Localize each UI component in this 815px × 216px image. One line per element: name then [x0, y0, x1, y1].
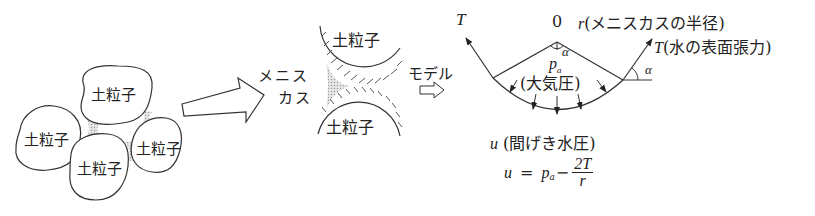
equation-equals: =: [520, 163, 533, 182]
grain-label: 土粒子: [332, 27, 380, 51]
grain-label: 土粒子: [91, 83, 136, 104]
hollow-arrow-icon: [182, 78, 264, 122]
meniscus-label: メニス: [258, 64, 309, 85]
tension-symbol: T: [654, 39, 663, 56]
center-label: 0: [552, 12, 562, 31]
radius-description: (メニスカスの半径): [584, 14, 724, 33]
grain-label: 土粒子: [326, 114, 374, 138]
equation-pa: p: [541, 164, 549, 182]
tension-description: (水の表面張力): [663, 38, 771, 57]
radius-label: r(メニスカスの半径): [578, 10, 725, 34]
fraction-numerator: 2T: [572, 156, 593, 173]
alpha-right-label: α: [645, 62, 652, 78]
pore-symbol: u: [490, 135, 498, 152]
tension-left-label: T: [456, 10, 465, 30]
equation-pa-subscript: a: [549, 172, 554, 182]
equation-minus: −: [556, 163, 569, 182]
grain-label: 土粒子: [77, 157, 122, 178]
grain-label: 土粒子: [24, 128, 69, 149]
equation-fraction: 2T r: [572, 156, 593, 189]
model-label: モデル: [408, 62, 453, 83]
pore-description: (間げき水圧): [503, 134, 595, 153]
pore-pressure-equation: u = pa − 2T r: [504, 156, 593, 189]
tension-right-label: T(水の表面張力): [654, 34, 771, 58]
meniscus-label: カス: [278, 86, 312, 107]
model-arrow-icon: [420, 82, 444, 98]
alpha-top-label: α: [562, 44, 569, 60]
atmospheric-pressure-label: (大気圧): [520, 70, 580, 94]
equation-lhs: u: [504, 164, 512, 182]
pore-pressure-label: u (間げき水圧): [490, 130, 596, 154]
fraction-denominator: r: [580, 173, 586, 189]
grain-label: 土粒子: [136, 137, 181, 158]
